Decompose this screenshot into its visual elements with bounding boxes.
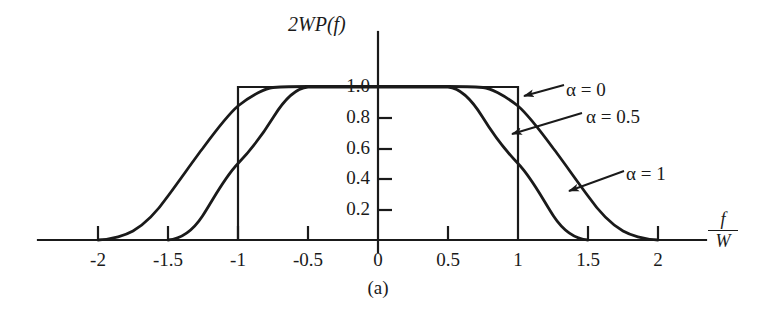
y-axis-ticks <box>378 118 392 210</box>
y-tick-label-1: 1.0 <box>318 76 370 95</box>
y-tick-label-0point8: 0.8 <box>318 107 370 126</box>
x-tick-label-1: 1 <box>492 250 544 269</box>
y-tick-label-0point4: 0.4 <box>318 168 370 187</box>
annotation-alpha-0: α = 0 <box>566 80 606 99</box>
x-tick-label-0: 0 <box>352 250 404 269</box>
x-tick-label-0point5: 0.5 <box>418 250 478 269</box>
y-axis-label: 2WP(f) <box>288 14 346 34</box>
arrow-alpha-0 <box>524 85 564 96</box>
x-tick-label-minus1point5: -1.5 <box>134 250 202 269</box>
x-tick-label-minus1: -1 <box>208 250 268 269</box>
annotation-alpha-0point5: α = 0.5 <box>586 107 640 126</box>
x-tick-label-minus0point5: -0.5 <box>274 250 342 269</box>
x-axis-label: f W <box>708 210 738 251</box>
y-tick-label-0point2: 0.2 <box>318 199 370 218</box>
x-tick-label-2: 2 <box>632 250 684 269</box>
x-tick-label-minus2: -2 <box>68 250 128 269</box>
y-axis-label-text: 2WP(f) <box>288 13 346 35</box>
y-tick-label-0point6: 0.6 <box>318 138 370 157</box>
figure-caption: (a) <box>348 278 408 297</box>
x-tick-label-1point5: 1.5 <box>558 250 618 269</box>
arrow-alpha-0point5 <box>512 113 582 134</box>
x-axis-label-denominator: W <box>708 231 738 251</box>
plot-canvas <box>0 0 772 322</box>
x-axis-label-numerator: f <box>708 210 738 231</box>
annotation-alpha-1: α = 1 <box>626 164 666 183</box>
figure-raised-cosine-spectrum: 2WP(f) 1.0 0.8 0.6 0.4 0.2 -2 -1.5 -1 -0… <box>0 0 772 322</box>
